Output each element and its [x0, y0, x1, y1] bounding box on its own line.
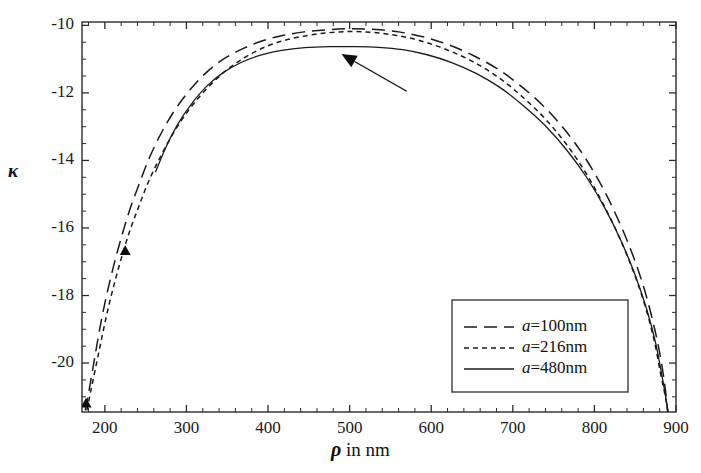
- triangle-marker-upper: [120, 245, 131, 255]
- x-tick-label: 200: [87, 418, 123, 438]
- x-tick-label: 700: [495, 418, 531, 438]
- x-tick-label: 600: [413, 418, 449, 438]
- y-tick-label: -10: [34, 14, 74, 34]
- legend-value-2: =480nm: [531, 358, 588, 377]
- y-tick-label: -14: [34, 149, 74, 169]
- x-tick-label: 400: [250, 418, 286, 438]
- data-markers-group: [81, 245, 131, 407]
- arrow-shaft: [355, 61, 407, 91]
- legend-symbol-2: a: [522, 358, 531, 377]
- legend-symbol-1: a: [522, 337, 531, 356]
- x-axis-label-symbol: ρ: [331, 438, 341, 460]
- y-tick-label: -12: [34, 82, 74, 102]
- x-tick-label: 500: [332, 418, 368, 438]
- chart-plot-area: [0, 0, 701, 473]
- x-tick-label: 800: [576, 418, 612, 438]
- legend-value-1: =216nm: [531, 337, 588, 356]
- chart-figure: 200300400500600700800900-10-12-14-16-18-…: [0, 0, 701, 473]
- annotations-group: [341, 54, 406, 91]
- legend-entry-1: a=216nm: [522, 337, 587, 357]
- legend-entry-2: a=480nm: [522, 358, 587, 378]
- legend-value-0: =100nm: [531, 316, 588, 335]
- x-axis-label: ρ in nm: [331, 438, 390, 461]
- x-tick-label: 300: [168, 418, 204, 438]
- y-tick-label: -20: [34, 352, 74, 372]
- y-tick-label: -18: [34, 285, 74, 305]
- legend-symbol-0: a: [522, 316, 531, 335]
- x-axis-label-rest: in nm: [341, 439, 390, 460]
- x-tick-label: 900: [658, 418, 694, 438]
- legend-entry-0: a=100nm: [522, 316, 587, 336]
- arrow-head: [341, 54, 357, 67]
- y-tick-label: -16: [34, 217, 74, 237]
- y-axis-label: κ: [8, 160, 18, 182]
